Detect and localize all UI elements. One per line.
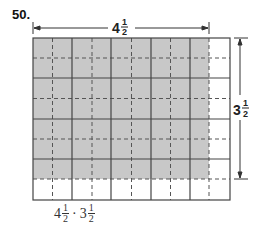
shaded-region bbox=[33, 38, 209, 179]
multiplication-expression: 4 12 · 3 12 bbox=[54, 203, 95, 224]
expr-operator: · bbox=[72, 206, 77, 222]
expr-b-den: 2 bbox=[89, 214, 94, 224]
expr-a-den: 2 bbox=[63, 214, 68, 224]
expr-b-whole: 3 bbox=[80, 206, 87, 222]
width-dimension-arrow bbox=[33, 22, 209, 34]
height-num: 1 bbox=[243, 98, 248, 108]
expr-a-fraction: 12 bbox=[62, 203, 69, 224]
expr-a-whole: 4 bbox=[54, 206, 61, 222]
expr-b-fraction: 12 bbox=[88, 203, 95, 224]
height-den: 2 bbox=[243, 109, 248, 119]
width-whole: 4 bbox=[112, 20, 120, 36]
area-model-diagram: 4 1 2 3 1 2 bbox=[0, 0, 258, 237]
width-den: 2 bbox=[122, 27, 127, 37]
width-num: 1 bbox=[122, 17, 127, 27]
height-whole: 3 bbox=[233, 102, 241, 118]
